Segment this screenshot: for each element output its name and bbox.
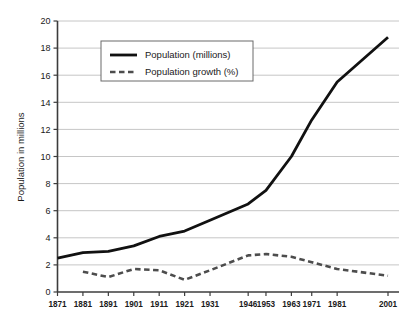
x-tick-label: 1931 xyxy=(201,300,220,309)
x-tick-label: 1901 xyxy=(125,300,144,309)
y-tick-label: 18 xyxy=(40,43,50,53)
x-tick-label: 2001 xyxy=(379,300,398,309)
chart-canvas: 02468101214161820 1871188118911901191119… xyxy=(0,0,414,330)
y-tick-label: 4 xyxy=(45,233,50,243)
y-tick-label: 12 xyxy=(40,125,50,135)
x-tick-label: 1891 xyxy=(99,300,118,309)
y-tick-label: 0 xyxy=(45,287,50,297)
y-tick-label: 20 xyxy=(40,16,50,26)
x-tick-label: 1921 xyxy=(176,300,195,309)
y-tick-label: 2 xyxy=(45,260,50,270)
legend-label: Population growth (%) xyxy=(145,66,238,77)
y-tick-label: 10 xyxy=(40,152,50,162)
x-tick-label: 1963 xyxy=(282,300,301,309)
x-tick-label: 1953 xyxy=(257,300,276,309)
chart-legend: Population (millions)Population growth (… xyxy=(101,41,253,81)
y-tick-label: 8 xyxy=(45,179,50,189)
x-tick-label: 1881 xyxy=(74,300,93,309)
population-line-chart: 02468101214161820 1871188118911901191119… xyxy=(0,0,414,330)
y-tick-label: 6 xyxy=(45,206,50,216)
x-tick-label: 1911 xyxy=(150,300,168,309)
legend-label: Population (millions) xyxy=(145,49,231,60)
x-tick-label: 1871 xyxy=(48,300,67,309)
y-tick-label: 14 xyxy=(40,98,50,108)
x-tick-label: 1971 xyxy=(303,300,322,309)
y-axis-title: Population in millions xyxy=(15,112,26,201)
x-tick-label: 1981 xyxy=(328,300,347,309)
y-tick-label: 16 xyxy=(40,71,50,81)
x-tick-label: 1946 xyxy=(239,300,258,309)
